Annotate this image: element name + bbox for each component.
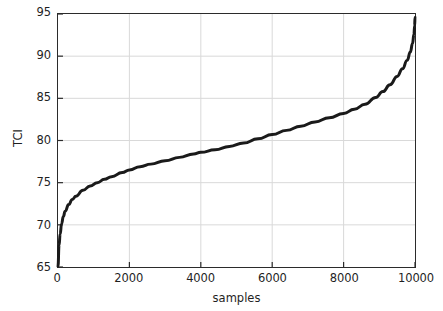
data-series-line (58, 14, 415, 267)
x-tick-label: 2000 (114, 273, 143, 285)
y-tick-label: 65 (37, 262, 51, 274)
x-tick-label: 10000 (398, 273, 434, 285)
x-tick-label: 0 (53, 273, 60, 285)
y-tick-label: 75 (37, 177, 51, 189)
y-tick-label: 95 (37, 7, 51, 19)
y-tick-label: 80 (37, 135, 51, 147)
y-tick-label: 70 (37, 220, 51, 232)
x-tick-label: 4000 (186, 273, 215, 285)
y-tick-label: 85 (37, 92, 51, 104)
x-tick-label: 6000 (258, 273, 287, 285)
chart-figure: 65707580859095 TCI 020004000600080001000… (0, 0, 443, 311)
plot-area (57, 13, 416, 268)
y-axis-tick-labels: 65707580859095 (0, 13, 51, 268)
x-tick-label: 8000 (330, 273, 359, 285)
y-axis-title: TCI (12, 108, 24, 168)
x-axis-tick-labels: 0200040006000800010000 (57, 273, 416, 289)
x-axis-title: samples (57, 292, 416, 304)
y-tick-label: 90 (37, 50, 51, 62)
series-path (58, 17, 415, 266)
